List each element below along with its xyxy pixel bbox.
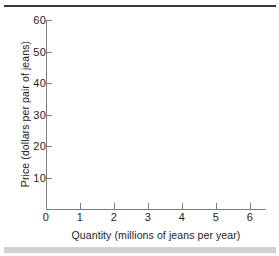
x-tick-mark bbox=[250, 203, 251, 209]
x-tick-mark bbox=[80, 203, 81, 209]
x-tick-label: 0 bbox=[34, 211, 58, 223]
x-axis-line bbox=[46, 209, 266, 210]
y-tick-mark bbox=[47, 115, 52, 116]
x-tick-mark bbox=[148, 203, 149, 209]
x-tick-mark bbox=[114, 203, 115, 209]
y-tick-mark bbox=[47, 178, 52, 179]
x-tick-mark bbox=[182, 203, 183, 209]
x-tick-label: 1 bbox=[68, 211, 92, 223]
x-tick-mark bbox=[216, 203, 217, 209]
x-tick-label: 4 bbox=[170, 211, 194, 223]
x-axis-title: Quantity (millions of jeans per year) bbox=[46, 229, 266, 241]
x-tick-label: 2 bbox=[102, 211, 126, 223]
x-tick-label: 6 bbox=[238, 211, 262, 223]
x-tick-label: 5 bbox=[204, 211, 228, 223]
y-axis-title: Price (dollars per pair of jeans) bbox=[19, 14, 31, 214]
graph-figure: 60 50 40 30 20 10 0 1 2 3 4 5 6 Quantity… bbox=[0, 0, 279, 256]
x-tick-label: 3 bbox=[136, 211, 160, 223]
plot-area bbox=[47, 20, 266, 209]
y-tick-mark bbox=[47, 20, 52, 21]
bottom-page-band bbox=[4, 247, 276, 253]
y-tick-mark bbox=[47, 83, 52, 84]
y-tick-mark bbox=[47, 52, 52, 53]
y-tick-mark bbox=[47, 146, 52, 147]
